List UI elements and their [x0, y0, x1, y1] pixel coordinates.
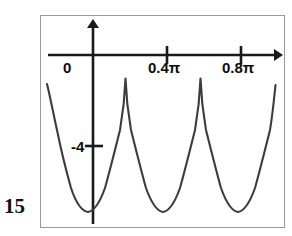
figure-container: 15 0 0.4π 0.8π -4	[0, 0, 292, 236]
problem-number-label: 15	[4, 196, 25, 217]
plot-frame	[40, 15, 285, 228]
x-axis-origin-label: 0	[63, 60, 71, 75]
x-axis-tick-label-0.8pi: 0.8π	[222, 60, 254, 75]
y-axis-tick-label-minus4: -4	[71, 139, 84, 154]
x-axis-tick-label-0.4pi: 0.4π	[148, 60, 180, 75]
